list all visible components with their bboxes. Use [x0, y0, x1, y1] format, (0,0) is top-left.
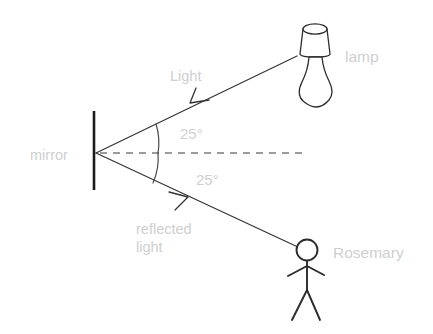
figure-head — [297, 240, 318, 261]
lamp-label: lamp — [345, 48, 379, 65]
reflection-diagram: mirror lamp Light 25° 25° reflected ligh… — [0, 0, 433, 334]
angle-arc-reflection — [153, 153, 158, 183]
lamp-bulb — [299, 57, 332, 107]
figure-legs — [292, 290, 320, 320]
figure-arms — [288, 266, 324, 276]
person-label: Rosemary — [333, 244, 404, 261]
lamp-icon — [299, 24, 332, 107]
mirror-label: mirror — [30, 147, 68, 163]
stick-figure-icon — [288, 240, 324, 321]
angle-incidence-label: 25° — [180, 125, 203, 142]
angle-arc-incidence — [156, 124, 159, 153]
reflected-ray-line — [96, 153, 300, 248]
reflected-ray-label-line2: light — [136, 239, 163, 255]
incident-ray-label: Light — [170, 68, 201, 84]
diagram-canvas: mirror lamp Light 25° 25° reflected ligh… — [0, 0, 433, 334]
incident-ray-arrowhead — [190, 88, 209, 103]
angle-reflection-label: 25° — [196, 171, 219, 188]
lamp-shade-rim — [303, 24, 327, 34]
reflected-ray-label-line1: reflected — [136, 221, 192, 237]
